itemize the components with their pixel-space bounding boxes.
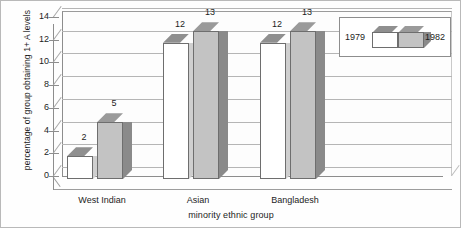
floor-right-edge (442, 176, 452, 190)
bar-face (260, 43, 286, 179)
bar-1979-asian (163, 43, 189, 179)
bar-value-label: 12 (264, 19, 290, 29)
legend-label-1982: 1982 (425, 32, 445, 42)
legend-swatch-1982-face (398, 32, 424, 48)
floor-front-edge (53, 189, 452, 190)
y-tick-mark (49, 40, 59, 41)
bar-1982-west-indian (97, 122, 123, 179)
legend-swatch-1979-face (372, 32, 398, 48)
bar-1979-bangladesh (260, 43, 286, 179)
y-tick-label: 4 (23, 125, 49, 135)
bar-side (219, 31, 228, 179)
bar-1982-asian (193, 31, 219, 179)
x-tick-label: Asian (153, 195, 243, 205)
y-tick-label: 8 (23, 79, 49, 89)
floor-left-edge (53, 176, 63, 190)
legend-label-1979: 1979 (345, 32, 365, 42)
legend[interactable]: 1979 1982 (339, 17, 451, 57)
x-tick-label: West Indian (57, 195, 147, 205)
bar-side (123, 122, 132, 179)
bar-face (290, 31, 316, 179)
bar-face (163, 43, 189, 179)
y-tick-mark (49, 153, 59, 154)
bar-value-label: 13 (294, 7, 320, 17)
y-tick-label: 12 (23, 34, 49, 44)
y-tick-label: 2 (23, 147, 49, 157)
y-tick-mark (49, 176, 59, 177)
bar-value-label: 2 (71, 132, 97, 142)
chart-figure: percentage of group obtaining 1+ A level… (0, 0, 461, 228)
y-tick-mark (49, 131, 59, 132)
bar-value-label: 5 (101, 98, 127, 108)
y-tick-mark (49, 62, 59, 63)
legend-swatch-3d-box-icon (372, 26, 424, 48)
gridline (62, 76, 452, 77)
bar-face (193, 31, 219, 179)
bar-side (316, 31, 325, 179)
y-tick-label: 6 (23, 102, 49, 112)
bar-value-label: 13 (197, 7, 223, 17)
bar-1982-bangladesh (290, 31, 316, 179)
gridline (62, 8, 452, 9)
y-tick-label: 0 (23, 170, 49, 180)
bar-value-label: 12 (167, 19, 193, 29)
bar-1979-west-indian (67, 156, 93, 179)
y-tick-mark (49, 85, 59, 86)
y-tick-label: 10 (23, 56, 49, 66)
y-tick-label: 14 (23, 11, 49, 21)
y-tick-mark (49, 108, 59, 109)
bar-face (97, 122, 123, 179)
bar-face (67, 156, 93, 179)
y-tick-mark (49, 17, 59, 18)
x-axis-title: minority ethnic group (121, 210, 341, 220)
axis-depth-connector (53, 6, 62, 18)
x-tick-label: Bangladesh (250, 195, 340, 205)
